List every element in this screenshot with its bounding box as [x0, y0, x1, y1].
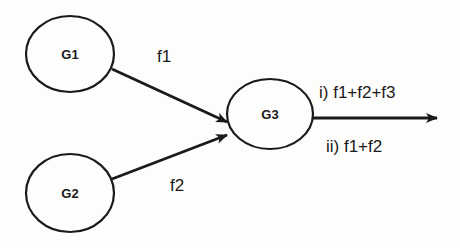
- edge-g2-g3-label: f2: [170, 176, 184, 195]
- node-g1-label: G1: [61, 47, 78, 62]
- flow-diagram: G1 G2 G3 f1 f2 i) f1+f2+f3 ii) f1+f2: [0, 0, 460, 248]
- edge-g3-output: i) f1+f2+f3 ii) f1+f2: [313, 83, 437, 156]
- edge-g1-g3-arrow: [112, 69, 227, 122]
- edge-g1-g3: f1: [112, 47, 227, 122]
- node-g3-label: G3: [261, 107, 278, 122]
- node-g3: G3: [227, 79, 313, 149]
- node-g2: G2: [26, 154, 114, 232]
- edge-g2-g3: f2: [112, 135, 227, 195]
- node-g2-label: G2: [61, 186, 78, 201]
- node-g1: G1: [26, 16, 114, 92]
- edge-g3-output-label-bottom: ii) f1+f2: [326, 137, 382, 156]
- edge-g2-g3-arrow: [112, 135, 227, 179]
- edge-g3-output-label-top: i) f1+f2+f3: [319, 83, 396, 102]
- edge-g1-g3-label: f1: [157, 47, 171, 66]
